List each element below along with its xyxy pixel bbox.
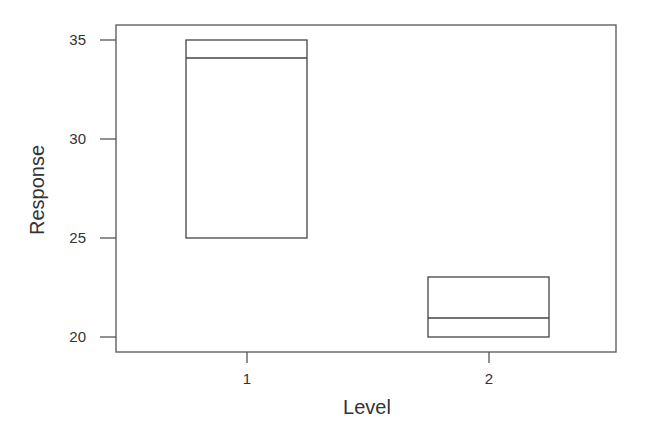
y-axis: 20 25 30 35 — [69, 31, 116, 345]
y-tick-label-35: 35 — [69, 31, 86, 48]
x-tick-label-2: 2 — [485, 370, 493, 387]
y-tick-label-25: 25 — [69, 229, 86, 246]
x-tick-label-1: 1 — [243, 370, 251, 387]
y-axis-title: Response — [26, 145, 48, 235]
box-level-2 — [428, 277, 549, 337]
box-2-iqr — [428, 277, 549, 337]
x-axis-title: Level — [343, 396, 391, 418]
box-level-1 — [186, 40, 307, 238]
x-axis: 1 2 — [243, 352, 493, 387]
y-tick-label-30: 30 — [69, 130, 86, 147]
boxplot-chart: 20 25 30 35 1 2 Level Response — [0, 0, 647, 433]
box-1-iqr — [186, 40, 307, 238]
y-tick-label-20: 20 — [69, 328, 86, 345]
plot-frame — [116, 25, 616, 352]
